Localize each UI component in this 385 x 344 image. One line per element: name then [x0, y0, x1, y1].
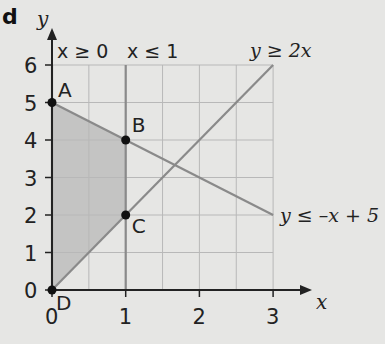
point-a [48, 98, 57, 107]
point-label-a: A [58, 78, 72, 102]
label-y-le-minus-x-plus-5: y ≤ –x + 5 [279, 204, 379, 226]
point-label-b: B [132, 113, 146, 137]
y-axis-arrow-icon [47, 28, 57, 40]
label-x-le-1: x ≤ 1 [127, 40, 178, 62]
y-tick-label: 2 [24, 204, 37, 228]
y-tick-label: 4 [24, 129, 37, 153]
label-x-ge-0: x ≥ 0 [57, 40, 108, 62]
y-tick-label: 3 [24, 167, 37, 191]
y-tick-label: 1 [24, 242, 37, 266]
label-y-ge-2x: y ≥ 2x [249, 39, 312, 61]
x-tick-label: 3 [266, 305, 279, 329]
point-label-d: D [56, 291, 71, 315]
x-tick-label: 1 [119, 305, 132, 329]
point-c [121, 211, 130, 220]
x-axis-arrow-icon [300, 285, 312, 295]
x-tick-label: 2 [192, 305, 205, 329]
y-tick-label: 6 [24, 54, 37, 78]
x-axis-label: x [316, 290, 327, 314]
y-tick-label: 0 [24, 279, 37, 303]
point-label-c: C [132, 214, 146, 238]
inequality-graph: 01230123456yxx ≥ 0x ≤ 1y ≥ 2xy ≤ –x + 5A… [0, 0, 385, 344]
point-b [121, 136, 130, 145]
y-axis-label: y [36, 7, 49, 31]
y-tick-label: 5 [24, 92, 37, 116]
